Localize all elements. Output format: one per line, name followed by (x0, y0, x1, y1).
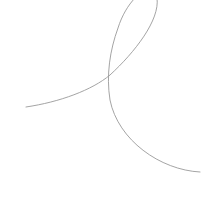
diagram-canvas (0, 0, 203, 197)
curve-drawing (0, 0, 203, 197)
looping-curve (26, 0, 200, 172)
